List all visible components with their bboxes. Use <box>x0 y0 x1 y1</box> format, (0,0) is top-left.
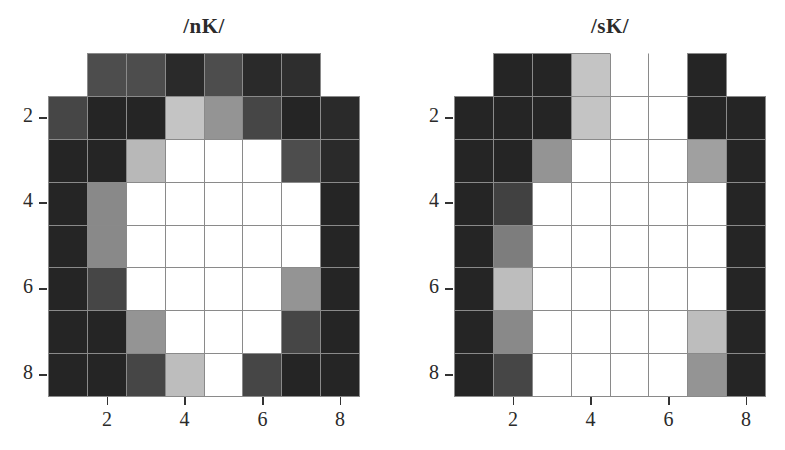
heatmap-cell <box>610 353 650 397</box>
heatmap-cell <box>571 182 611 226</box>
heatmap-cell <box>320 225 360 269</box>
x-tick-label: 6 <box>251 408 275 431</box>
heatmap-cell <box>281 225 321 269</box>
heatmap-cell <box>87 225 127 269</box>
heatmap-cell <box>726 225 766 269</box>
heatmap-cell <box>204 96 244 140</box>
panel-nk: /nK/ 2 4 6 8 2 4 6 8 <box>0 0 392 450</box>
y-tick-label: 8 <box>419 361 439 384</box>
heatmap-cell <box>242 53 282 97</box>
y-tick <box>39 288 47 290</box>
heatmap-cell <box>87 182 127 226</box>
heatmap-cell <box>87 310 127 354</box>
heatmap-cell <box>204 139 244 183</box>
heatmap-cell <box>87 267 127 311</box>
heatmap-cell <box>165 96 205 140</box>
heatmap-cell <box>571 96 611 140</box>
heatmap-cell <box>242 139 282 183</box>
x-tick-label: 8 <box>734 408 758 431</box>
x-tick-label: 6 <box>657 408 681 431</box>
y-tick-label: 8 <box>13 361 33 384</box>
heatmap-cell <box>571 225 611 269</box>
heatmap-cell <box>126 267 166 311</box>
heatmap-cell <box>571 353 611 397</box>
x-tick-label: 2 <box>501 408 525 431</box>
heatmap-cell <box>454 139 494 183</box>
heatmap-cell <box>165 353 205 397</box>
heatmap-cell <box>281 139 321 183</box>
heatmap-cell <box>532 267 572 311</box>
heatmap-cell <box>532 139 572 183</box>
heatmap-cell <box>532 225 572 269</box>
heatmap-cell <box>126 139 166 183</box>
y-tick <box>39 374 47 376</box>
heatmap-cell <box>648 310 688 354</box>
heatmap-cell <box>87 139 127 183</box>
y-tick-label: 2 <box>13 104 33 127</box>
heatmap-cell <box>454 96 494 140</box>
x-tick <box>107 397 109 405</box>
heatmap-cell <box>281 53 321 97</box>
heatmap-cell <box>165 182 205 226</box>
heatmap-cell <box>532 96 572 140</box>
y-tick <box>39 202 47 204</box>
heatmap-cell <box>87 96 127 140</box>
heatmap-cell <box>493 53 533 97</box>
heatmap-cell <box>281 353 321 397</box>
x-tick <box>513 397 515 405</box>
heatmap-cell <box>126 182 166 226</box>
heatmap-cell <box>242 182 282 226</box>
heatmap-cell <box>648 139 688 183</box>
chart-title: /sK/ <box>510 14 710 39</box>
heatmap-cell <box>493 353 533 397</box>
heatmap-cell <box>320 267 360 311</box>
x-tick-label: 8 <box>328 408 352 431</box>
y-tick-label: 6 <box>13 275 33 298</box>
y-tick-label: 6 <box>419 275 439 298</box>
heatmap-cell <box>165 139 205 183</box>
heatmap-cell <box>610 182 650 226</box>
heatmap-cell <box>532 353 572 397</box>
heatmap-cell <box>281 267 321 311</box>
heatmap-cell <box>242 96 282 140</box>
heatmap-cell <box>726 139 766 183</box>
heatmap-cell <box>48 182 88 226</box>
heatmap-cell <box>281 310 321 354</box>
heatmap-cell <box>726 267 766 311</box>
x-tick-label: 4 <box>579 408 603 431</box>
heatmap-cell <box>571 139 611 183</box>
heatmap-cell <box>281 96 321 140</box>
heatmap-cell <box>610 96 650 140</box>
heatmap-cell <box>493 182 533 226</box>
heatmap-cell <box>48 139 88 183</box>
heatmap-cell <box>726 182 766 226</box>
heatmap-cell <box>454 310 494 354</box>
heatmap-cell <box>610 267 650 311</box>
heatmap-cell <box>454 225 494 269</box>
x-tick <box>668 397 670 405</box>
heatmap-cell <box>204 225 244 269</box>
x-tick <box>746 397 748 405</box>
heatmap-cell <box>204 267 244 311</box>
heatmap-cell <box>320 182 360 226</box>
heatmap-cell <box>320 139 360 183</box>
heatmap-cell <box>48 353 88 397</box>
heatmap-cell <box>610 310 650 354</box>
heatmap-cell <box>126 53 166 97</box>
heatmap-cell <box>126 225 166 269</box>
heatmap-cell <box>320 310 360 354</box>
heatmap-cell <box>687 182 727 226</box>
heatmap-grid <box>454 53 765 396</box>
heatmap-cell <box>687 353 727 397</box>
heatmap-cell <box>87 353 127 397</box>
y-tick-label: 2 <box>419 104 439 127</box>
heatmap-cell <box>493 139 533 183</box>
heatmap-cell <box>726 310 766 354</box>
x-tick-label: 4 <box>173 408 197 431</box>
heatmap-cell <box>204 310 244 354</box>
x-tick <box>590 397 592 405</box>
heatmap-cell <box>493 310 533 354</box>
heatmap-cell <box>648 225 688 269</box>
heatmap-cell <box>687 225 727 269</box>
heatmap-cell <box>454 267 494 311</box>
